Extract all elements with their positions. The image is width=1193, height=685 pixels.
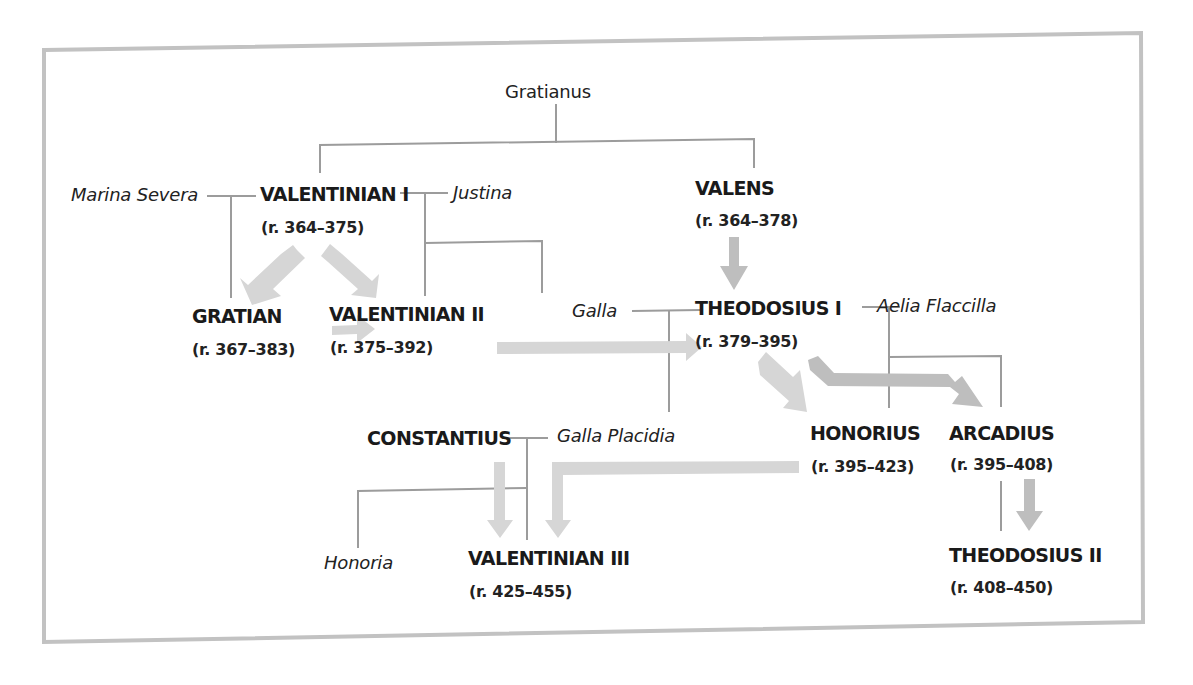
arrow-valentinian1-to-gratian	[240, 245, 305, 305]
emperor-valentinian-ii: VALENTINIAN II	[329, 305, 484, 324]
arrow-theodosius1-to-arcadius	[808, 356, 983, 407]
reign-valens: (r. 364–378)	[695, 213, 798, 229]
reign-valentinian-iii: (r. 425–455)	[469, 584, 572, 600]
arrow-honorius-to-valentinian3	[545, 461, 799, 538]
arrow-theodosius1-to-honorius	[758, 352, 807, 412]
reign-theodosius-ii: (r. 408–450)	[950, 580, 1053, 596]
arrow-constantius-to-valentinian3	[487, 462, 513, 538]
person-justina: Justina	[453, 184, 512, 202]
arrow-valentinian2-to-theodosius1	[497, 333, 702, 361]
arrow-valens-to-theodosius1	[720, 237, 748, 290]
arrow-valentinian1-to-valentinian2	[321, 244, 379, 298]
emperor-arcadius: ARCADIUS	[949, 424, 1054, 443]
reign-gratian: (r. 367–383)	[192, 342, 295, 358]
person-gratianus: Gratianus	[505, 83, 591, 101]
person-galla: Galla	[572, 302, 617, 320]
reign-theodosius-i: (r. 379–395)	[695, 334, 798, 350]
person-aelia-flaccilla: Aelia Flaccilla	[877, 297, 996, 315]
reign-valentinian-ii: (r. 375–392)	[330, 340, 433, 356]
family-lines	[207, 104, 1001, 548]
reign-arcadius: (r. 395–408)	[950, 457, 1053, 473]
emperor-honorius: HONORIUS	[810, 424, 920, 443]
emperor-gratian: GRATIAN	[192, 307, 282, 326]
emperor-valentinian-i: VALENTINIAN I	[260, 185, 409, 204]
person-marina-severa: Marina Severa	[71, 186, 198, 204]
succession-arrows	[240, 237, 1043, 538]
emperor-valentinian-iii: VALENTINIAN III	[468, 549, 630, 568]
emperor-theodosius-i: THEODOSIUS I	[695, 299, 841, 318]
reign-honorius: (r. 395–423)	[811, 459, 914, 475]
emperor-theodosius-ii: THEODOSIUS II	[949, 546, 1102, 565]
person-constantius: CONSTANTIUS	[367, 429, 511, 448]
person-honoria: Honoria	[324, 554, 393, 572]
arrow-arcadius-to-theodosius2	[1016, 479, 1043, 531]
reign-valentinian-i: (r. 364–375)	[261, 220, 364, 236]
emperor-valens: VALENS	[695, 179, 774, 198]
person-galla-placidia: Galla Placidia	[557, 427, 675, 445]
